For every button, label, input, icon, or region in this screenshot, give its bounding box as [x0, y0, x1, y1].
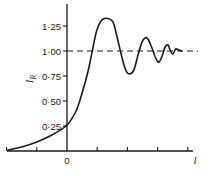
x-axis-label: l — [193, 154, 196, 166]
y-tick-labels: 0·250·500·751·001·25 — [42, 21, 61, 132]
chart: 0·250·500·751·001·25 0 l IR — [0, 0, 211, 176]
y-axis-label: IR — [23, 74, 38, 84]
y-axis-label-sub: R — [29, 74, 38, 80]
svg-text:IR: IR — [23, 74, 38, 84]
y-tick-label: 0·75 — [42, 71, 61, 82]
y-tick-label: 0·50 — [42, 96, 61, 107]
x-origin-label: 0 — [64, 155, 69, 166]
y-tick-label: 1·25 — [42, 21, 61, 32]
data-line-ir — [8, 18, 182, 150]
y-tick-label: 0·25 — [42, 121, 61, 132]
y-tick-label: 1·00 — [42, 46, 61, 57]
